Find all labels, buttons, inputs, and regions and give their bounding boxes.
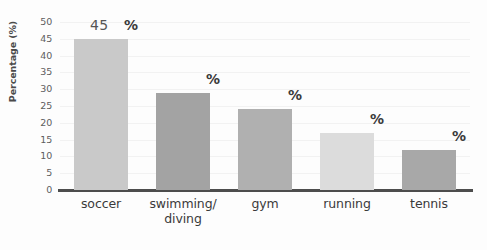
bar-value-label: 45 <box>90 17 109 33</box>
bar-percent-symbol: % <box>288 87 302 103</box>
y-tick-label: 0 <box>26 185 52 194</box>
x-tick-label-line: soccer <box>60 196 142 211</box>
y-axis-ticks: 50454035302520151050 <box>26 22 52 190</box>
y-axis-title: Percentage (%) <box>7 2 18 122</box>
y-tick-label: 40 <box>26 51 52 60</box>
x-tick-label: swimming/diving <box>142 196 224 226</box>
x-tick-label-line: gym <box>224 196 306 211</box>
x-tick-label-line: swimming/ <box>142 196 224 211</box>
x-tick-label: running <box>306 196 388 211</box>
bar <box>74 39 128 190</box>
y-tick-label: 10 <box>26 151 52 160</box>
y-tick-label: 30 <box>26 84 52 93</box>
bar-percent-symbol: % <box>370 111 384 127</box>
y-tick-label: 15 <box>26 135 52 144</box>
x-tick-label-line: diving <box>142 211 224 226</box>
y-tick-label: 35 <box>26 67 52 76</box>
y-tick-label: 5 <box>26 168 52 177</box>
y-tick-label: 25 <box>26 101 52 110</box>
bar-percent-symbol: % <box>452 128 466 144</box>
bar-percent-symbol: % <box>124 17 138 33</box>
y-tick-label: 45 <box>26 34 52 43</box>
bar <box>238 109 292 190</box>
bar <box>320 133 374 190</box>
bar <box>156 93 210 190</box>
x-tick-label-line: tennis <box>388 196 470 211</box>
x-tick-label-line: running <box>306 196 388 211</box>
x-tick-label: gym <box>224 196 306 211</box>
bar-series: 45%%%%% <box>60 22 470 190</box>
x-tick-label: tennis <box>388 196 470 211</box>
bar-percent-symbol: % <box>206 71 220 87</box>
y-tick-label: 50 <box>26 17 52 26</box>
y-tick-label: 20 <box>26 118 52 127</box>
bar-chart: 50454035302520151050 Percentage (%) 45%%… <box>0 0 487 250</box>
bar <box>402 150 456 190</box>
x-tick-label: soccer <box>60 196 142 211</box>
x-axis-labels: soccerswimming/divinggymrunningtennis <box>60 196 470 246</box>
